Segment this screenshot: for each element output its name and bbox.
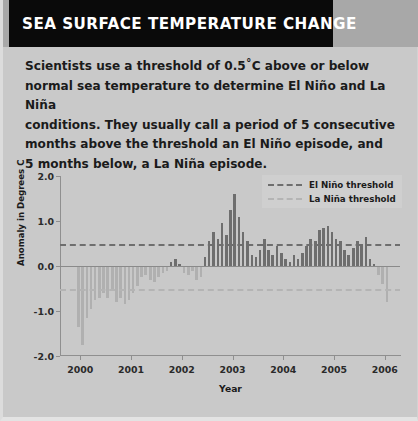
x-tick-mark bbox=[283, 356, 284, 360]
chart-bar bbox=[149, 266, 152, 280]
x-tick-label: 2006 bbox=[372, 364, 398, 375]
chart-bar bbox=[183, 266, 186, 273]
chart-bar bbox=[327, 226, 330, 267]
x-tick-label: 2002 bbox=[169, 364, 195, 375]
chart-bar bbox=[195, 266, 198, 280]
chart-bar bbox=[106, 266, 109, 298]
chart-bar bbox=[124, 266, 127, 304]
x-tick-label: 2005 bbox=[321, 364, 347, 375]
dashed-line-icon bbox=[268, 198, 302, 200]
x-tick-mark bbox=[334, 356, 335, 360]
y-axis-title: Anomaly in Degrees C bbox=[16, 160, 26, 266]
chart-bar bbox=[343, 250, 346, 266]
chart-bar bbox=[94, 266, 97, 300]
chart-bar bbox=[255, 257, 258, 266]
chart-bar bbox=[212, 232, 215, 266]
chart-bar bbox=[225, 235, 228, 267]
chart-legend: El Niño threshold La Niña threshold bbox=[262, 175, 402, 208]
chart-bar bbox=[280, 253, 283, 267]
y-tick-mark bbox=[56, 356, 60, 357]
chart-bar bbox=[144, 266, 147, 275]
y-tick-label: -2.0 bbox=[34, 351, 55, 362]
intro-line-2: normal sea temperature to determine El N… bbox=[25, 77, 405, 116]
chart-bar bbox=[276, 246, 279, 266]
infographic-panel: SEA SURFACE TEMPERATURE CHANGE Scientist… bbox=[0, 0, 418, 421]
la-nina-threshold-line bbox=[60, 289, 400, 291]
chart-bar bbox=[233, 194, 236, 266]
legend-label-la-nina: La Niña threshold bbox=[309, 194, 396, 204]
chart-bar bbox=[115, 266, 118, 302]
page-title: SEA SURFACE TEMPERATURE CHANGE bbox=[9, 15, 357, 33]
chart-bar bbox=[229, 210, 232, 266]
chart-bar bbox=[136, 266, 139, 286]
chart-bar bbox=[111, 266, 114, 291]
sst-anomaly-chart: Anomaly in Degrees C -2.0-1.00.01.02.0 2… bbox=[3, 168, 418, 413]
chart-bar bbox=[259, 250, 262, 266]
y-tick-label: -1.0 bbox=[34, 306, 55, 317]
x-tick-label: 2000 bbox=[67, 364, 93, 375]
chart-bar bbox=[301, 253, 304, 267]
legend-label-el-nino: El Niño threshold bbox=[309, 180, 393, 190]
x-axis-title: Year bbox=[60, 383, 401, 394]
x-tick-mark bbox=[131, 356, 132, 360]
x-tick-label: 2001 bbox=[118, 364, 144, 375]
legend-item-la-nina: La Niña threshold bbox=[268, 193, 396, 204]
chart-bar bbox=[365, 237, 368, 266]
chart-bar bbox=[157, 266, 160, 277]
zero-baseline bbox=[60, 266, 400, 267]
dashed-line-icon bbox=[268, 184, 302, 186]
chart-bar bbox=[369, 259, 372, 266]
chart-bar bbox=[318, 230, 321, 266]
chart-bar bbox=[331, 232, 334, 266]
chart-bar bbox=[174, 259, 177, 266]
chart-bar bbox=[293, 255, 296, 266]
chart-bar bbox=[77, 266, 80, 327]
chart-bar bbox=[305, 246, 308, 266]
x-tick-label: 2004 bbox=[270, 364, 296, 375]
title-block: SEA SURFACE TEMPERATURE CHANGE bbox=[9, 0, 333, 47]
x-tick-mark bbox=[233, 356, 234, 360]
legend-item-el-nino: El Niño threshold bbox=[268, 179, 396, 190]
chart-bar bbox=[200, 266, 203, 277]
chart-bar bbox=[381, 266, 384, 284]
chart-bar bbox=[140, 266, 143, 277]
chart-bar bbox=[377, 266, 380, 275]
intro-paragraph: Scientists use a threshold of 0.5˚C abov… bbox=[25, 57, 405, 175]
chart-bar bbox=[204, 257, 207, 266]
chart-bar bbox=[98, 266, 101, 298]
chart-bar bbox=[238, 217, 241, 267]
intro-line-3: conditions. They usually call a period o… bbox=[25, 116, 405, 136]
chart-bar bbox=[86, 266, 89, 318]
el-nino-threshold-line bbox=[60, 244, 400, 246]
x-tick-label: 2003 bbox=[219, 364, 245, 375]
chart-bar bbox=[284, 259, 287, 266]
chart-bar bbox=[128, 266, 131, 300]
chart-bar bbox=[153, 266, 156, 282]
header-band: SEA SURFACE TEMPERATURE CHANGE bbox=[3, 0, 418, 47]
intro-line-1: Scientists use a threshold of 0.5˚C abov… bbox=[25, 57, 405, 77]
chart-bar bbox=[271, 255, 274, 266]
intro-line-4: months above the threshold an El Niño ep… bbox=[25, 135, 405, 155]
chart-bar bbox=[162, 266, 165, 273]
chart-bar bbox=[352, 248, 355, 266]
chart-bar bbox=[297, 259, 300, 266]
x-tick-mark bbox=[385, 356, 386, 360]
chart-bar bbox=[347, 255, 350, 266]
y-tick-label: 0.0 bbox=[37, 261, 54, 272]
chart-bar bbox=[90, 266, 93, 309]
chart-bar bbox=[251, 255, 254, 266]
chart-bar bbox=[267, 250, 270, 266]
chart-bar bbox=[81, 266, 84, 345]
x-tick-mark bbox=[182, 356, 183, 360]
x-tick-mark bbox=[80, 356, 81, 360]
chart-bar bbox=[360, 244, 363, 267]
chart-bar bbox=[242, 232, 245, 266]
chart-bar bbox=[322, 228, 325, 266]
chart-bar bbox=[119, 266, 122, 298]
chart-bar bbox=[386, 266, 389, 302]
y-tick-label: 1.0 bbox=[37, 216, 54, 227]
y-tick-label: 2.0 bbox=[37, 171, 54, 182]
chart-bar bbox=[187, 266, 190, 275]
